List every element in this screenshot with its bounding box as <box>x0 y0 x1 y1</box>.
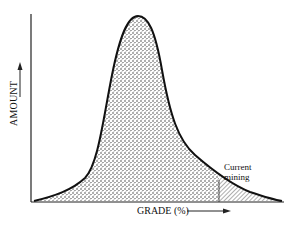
current-mining-annotation: Current mining <box>224 162 252 182</box>
annotation-line-2: mining <box>224 172 252 182</box>
up-arrow-icon <box>18 62 23 70</box>
x-axis-label: GRADE (%) <box>137 205 189 216</box>
chart-canvas <box>0 0 297 228</box>
y-axis-label: AMOUNT <box>8 81 19 126</box>
annotation-line-1: Current <box>224 162 252 172</box>
right-arrow-icon <box>223 209 231 214</box>
